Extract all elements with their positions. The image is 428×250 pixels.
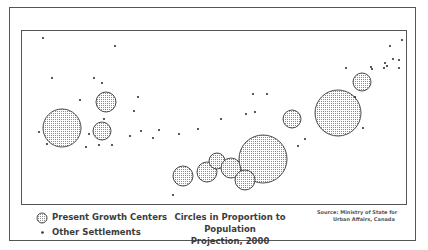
settlement-dot [252,93,254,95]
settlement-dot [370,66,372,68]
settlement-dot [392,58,394,60]
legend-growth-centers: Present Growth Centers [52,212,167,222]
growth-center-circle [235,170,255,190]
settlement-dot [401,39,403,41]
map-caption: Circles in Proportion to Population Proj… [160,211,300,247]
settlement-dot [220,118,222,120]
settlement-dot [111,144,113,146]
dotted-circle-icon [36,212,48,224]
settlement-dot [371,68,373,70]
settlement-dot [137,96,139,98]
source-line-2: Urban Affairs, Canada [317,216,397,223]
settlement-dot [93,77,95,79]
growth-center-circle [43,109,81,147]
settlement-dot [133,110,135,112]
legend-other-settlements: Other Settlements [52,227,141,237]
settlement-dot [38,131,40,133]
settlement-dot [85,146,87,148]
settlement-dot [254,111,256,113]
settlement-dot [362,127,364,129]
settlement-dot [266,93,268,95]
settlement-dot [354,96,356,98]
growth-center-circle [96,92,116,112]
settlement-dot [345,67,347,69]
settlement-dot [398,67,400,69]
settlement-dot [172,194,174,196]
growth-centers [43,73,371,190]
settlement-dot [103,118,105,120]
dot-icon [40,230,45,235]
source-note: Source: Ministry of State for Urban Affa… [317,209,397,223]
settlement-dot [386,65,388,67]
map-area [21,30,407,205]
caption-line-2: Projection, 2000 [160,235,300,247]
growth-center-circle [173,166,193,186]
settlement-dot [101,82,103,84]
source-line-1: Source: Ministry of State for [317,209,397,216]
settlement-dot [51,77,53,79]
settlement-dot [152,137,154,139]
settlement-dot [383,67,385,69]
settlement-dot [245,113,247,115]
settlement-dot [178,133,180,135]
settlement-dot [389,45,391,47]
settlement-dot [129,135,131,137]
settlement-dot [98,144,100,146]
settlement-dot [140,130,142,132]
settlement-dot [304,138,306,140]
settlement-dot [114,45,116,47]
settlement-dot [398,59,400,61]
settlement-dot [297,145,299,147]
growth-center-circle [353,73,371,91]
settlement-dot [197,128,199,130]
growth-center-circle [283,110,301,128]
settlement-dot [158,129,160,131]
settlement-dot [46,143,48,145]
caption-line-1: Circles in Proportion to Population [160,211,300,235]
settlement-dot [384,62,386,64]
settlement-dot [88,133,90,135]
settlement-dot [79,99,81,101]
settlement-dot [42,37,44,39]
growth-center-circle [93,122,111,140]
